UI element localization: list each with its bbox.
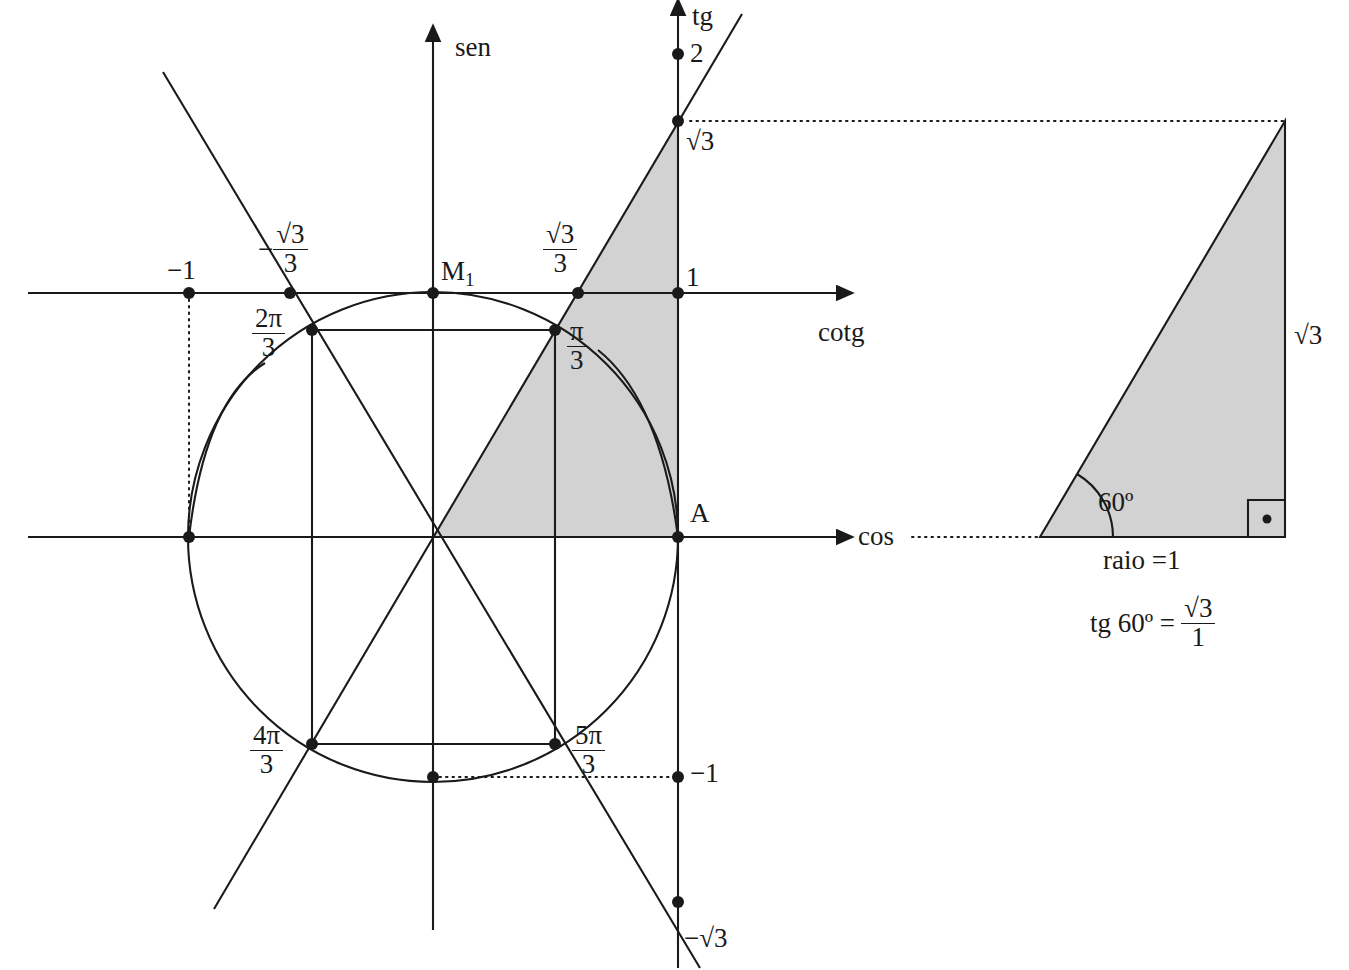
label-sen-minus-one: −1: [690, 760, 719, 787]
point-M1: [427, 287, 439, 299]
label-tg-minus-sqrt3: −√3: [684, 925, 728, 952]
axis-label-cos: cos: [858, 523, 894, 550]
label-tg60-formula: tg 60º = √3 1: [1090, 595, 1215, 651]
label-M1-letter: M: [441, 256, 465, 286]
label-cotg-minus-sqrt3-over-3: − √3 3: [258, 221, 308, 277]
fraction-4pi-over-3: 4π 3: [250, 722, 283, 778]
label-triangle-angle: 60º: [1098, 489, 1133, 516]
label-triangle-height: √3: [1294, 322, 1322, 349]
fraction-numerator: √3: [1181, 595, 1215, 623]
fraction-denominator: 3: [567, 346, 587, 375]
axis-label-tg: tg: [692, 3, 713, 30]
fraction-denominator: 3: [250, 750, 283, 779]
label-cotg-one: 1: [686, 264, 700, 291]
point-sen-minus-one: [672, 771, 684, 783]
formula-prefix: tg 60º =: [1090, 610, 1175, 637]
fraction-2pi-over-3: 2π 3: [252, 305, 285, 361]
point-cotg-minus-sqrt3-over-3: [284, 287, 296, 299]
fraction-numerator: √3: [273, 221, 307, 249]
fraction-5pi-over-3: 5π 3: [572, 722, 605, 778]
point-tg-two: [672, 48, 684, 60]
point-A: [672, 531, 684, 543]
fraction-sqrt3-over-3: √3 3: [543, 221, 577, 277]
fraction-denominator: 3: [543, 249, 577, 278]
point-5pi-3: [549, 738, 561, 750]
point-cotg-one: [672, 287, 684, 299]
axis-label-cotg: cotg: [818, 319, 865, 346]
formula-row: tg 60º = √3 1: [1090, 595, 1215, 651]
label-M1-subscript: 1: [465, 269, 475, 290]
point-4pi-3: [306, 738, 318, 750]
fraction-numerator: √3: [543, 221, 577, 249]
point-cotg-sqrt3-over-3: [572, 287, 584, 299]
label-cotg-minus-one: −1: [167, 257, 196, 284]
label-M1: M1: [441, 258, 475, 289]
label-tg-two: 2: [690, 40, 704, 67]
point-2pi-3: [306, 324, 318, 336]
point-tg-sqrt3: [672, 115, 684, 127]
fraction-numerator: π: [567, 318, 587, 346]
point-circle-bottom: [427, 771, 439, 783]
label-triangle-base: raio =1: [1103, 547, 1180, 574]
fraction-denominator: 3: [273, 249, 307, 278]
point-circle-left: [183, 531, 195, 543]
fraction-denominator: 3: [252, 333, 285, 362]
label-pi-over-3: π 3: [567, 318, 587, 374]
leader-arc-2pi-3: [189, 363, 265, 537]
fraction-numerator: 2π: [252, 305, 285, 333]
fraction-denominator: 3: [572, 750, 605, 779]
trig-diagram-svg: [0, 0, 1349, 970]
label-tg-sqrt3: √3: [686, 128, 714, 155]
label-5pi-over-3: 5π 3: [572, 722, 605, 778]
fraction-pi-over-3: π 3: [567, 318, 587, 374]
fraction-sqrt3-over-3-negative: √3 3: [273, 221, 307, 277]
point-tg-minus-sqrt3: [672, 896, 684, 908]
label-cotg-sqrt3-over-3: √3 3: [543, 221, 577, 277]
minus-sign: −: [258, 236, 273, 263]
fraction-numerator: 4π: [250, 722, 283, 750]
point-pi-3: [549, 324, 561, 336]
label-2pi-over-3: 2π 3: [252, 305, 285, 361]
fraction-numerator: 5π: [572, 722, 605, 750]
fraction-sqrt3-over-1: √3 1: [1181, 595, 1215, 651]
fraction-denominator: 1: [1181, 623, 1215, 652]
label-A: A: [690, 500, 710, 527]
label-4pi-over-3: 4π 3: [250, 722, 283, 778]
axis-label-sen: sen: [455, 34, 491, 61]
point-cotg-minus-one: [183, 287, 195, 299]
right-angle-dot-icon: [1263, 515, 1272, 524]
figure-canvas: sen tg cotg cos M1 A 2 √3 −√3 1 −1 √3 3 …: [0, 0, 1349, 970]
